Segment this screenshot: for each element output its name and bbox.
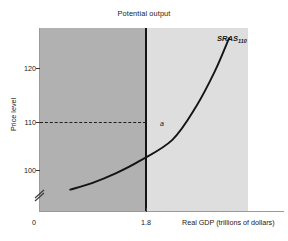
- y-tick-mark-100: [36, 170, 40, 171]
- y-tick-label-120: 120: [24, 64, 36, 73]
- chart-figure: Potential output 120 110 100 1.8 0 Price…: [0, 0, 288, 241]
- sras-curve-label: SRAS110: [217, 34, 247, 43]
- y-tick-mark-110: [36, 122, 40, 123]
- shaded-region-below-potential: [40, 28, 146, 211]
- y-axis-title: Price level: [9, 85, 18, 145]
- equilibrium-point-label: a: [160, 120, 164, 127]
- y-tick-label-110: 110: [25, 118, 36, 127]
- x-tick-label-1-8: 1.8: [141, 218, 151, 227]
- sras-curve-label-text: SRAS: [217, 34, 238, 43]
- y-axis-line: [39, 28, 40, 211]
- chart-title: Potential output: [0, 9, 288, 18]
- potential-output-line: [145, 28, 147, 211]
- x-axis-line: [39, 211, 284, 212]
- x-tick-mark-1-8: [146, 208, 147, 212]
- y-axis-break-icon: [33, 187, 47, 203]
- y-tick-label-100: 100: [24, 166, 36, 175]
- price-level-guide-dashed: [40, 122, 146, 123]
- plot-area: [40, 28, 248, 211]
- origin-label: 0: [32, 218, 36, 227]
- sras-curve-label-subscript: 110: [238, 38, 247, 44]
- y-tick-mark-120: [36, 68, 40, 69]
- x-axis-title: Real GDP (trillions of dollars): [182, 218, 275, 227]
